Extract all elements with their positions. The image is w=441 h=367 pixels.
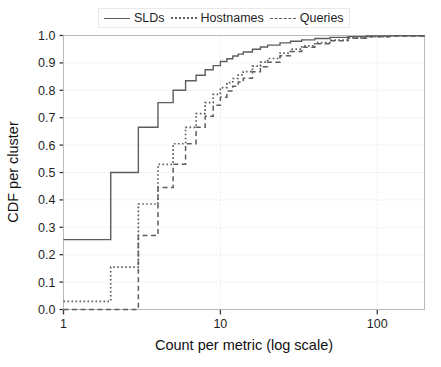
- y-tick-label: 0.6: [38, 139, 55, 153]
- y-tick-label: 0.0: [38, 303, 55, 317]
- y-tick-label: 0.4: [38, 193, 55, 207]
- series-line-hostnames: [64, 36, 425, 302]
- x-tick-label: 100: [367, 317, 388, 331]
- y-tick-label: 0.3: [38, 221, 55, 235]
- plot-area: 0.00.10.20.30.40.50.60.70.80.91.0110100 …: [0, 0, 441, 367]
- y-tick-label: 1.0: [38, 29, 55, 43]
- y-tick-label: 0.8: [38, 84, 55, 98]
- x-tick-label: 10: [213, 317, 227, 331]
- axis-ticks: [60, 36, 378, 315]
- y-tick-label: 0.7: [38, 111, 55, 125]
- x-tick-label: 1: [60, 317, 67, 331]
- y-tick-label: 0.1: [38, 276, 55, 290]
- y-tick-label: 0.2: [38, 248, 55, 262]
- y-tick-label: 0.5: [38, 166, 55, 180]
- y-tick-label: 0.9: [38, 56, 55, 70]
- series-line-slds: [64, 36, 425, 240]
- chart-figure: SLDs Hostnames Queries 0.00.10.20.30.40.…: [0, 0, 441, 367]
- tick-labels: 0.00.10.20.30.40.50.60.70.80.91.0110100: [38, 29, 388, 331]
- y-axis-title: CDF per cluster: [5, 121, 21, 223]
- x-axis-title: Count per metric (log scale): [155, 337, 333, 353]
